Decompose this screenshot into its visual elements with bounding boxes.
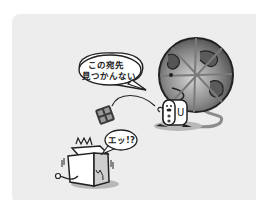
- packet-icon: [95, 105, 116, 126]
- pc-character: [56, 138, 114, 186]
- speech-text-server-line1: この宛先: [88, 60, 124, 70]
- illustration-svg: [0, 0, 256, 200]
- server-label: U: [177, 108, 184, 118]
- packet-trail: [112, 96, 155, 107]
- speech-text-server-line2: 見つかんない: [82, 71, 136, 81]
- speech-text-pc: エッ!?: [108, 135, 135, 145]
- pc-label: U: [97, 170, 104, 180]
